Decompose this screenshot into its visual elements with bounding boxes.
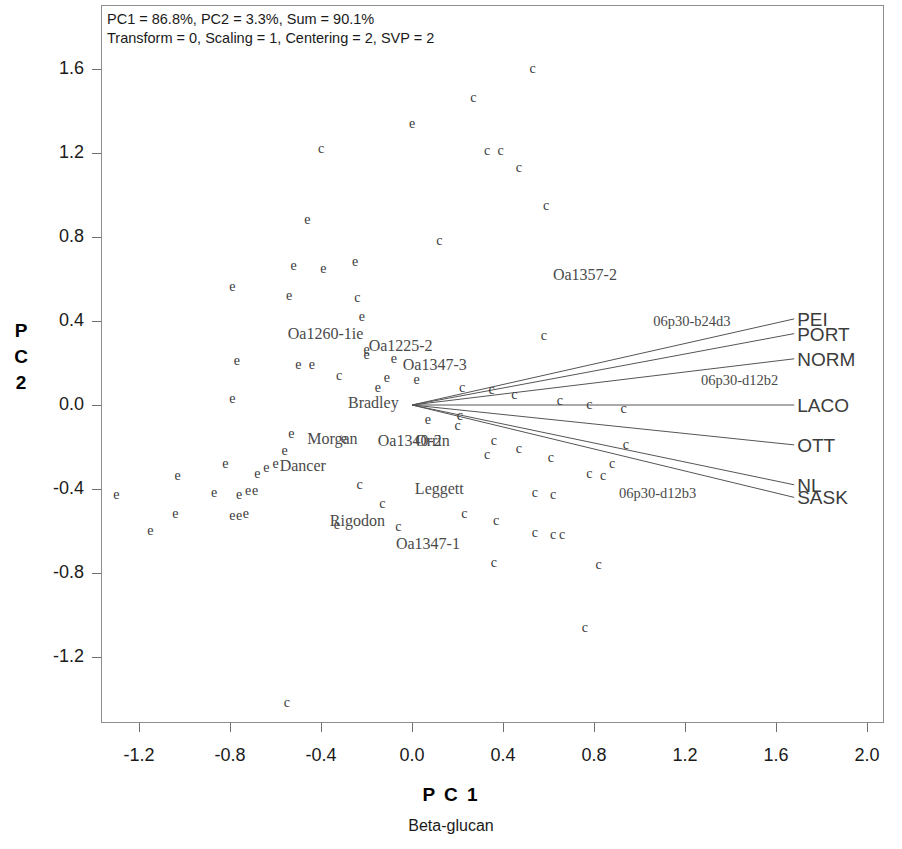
- scatter-point: e: [288, 427, 294, 441]
- scatter-point: c: [498, 144, 504, 158]
- scatter-point: c: [491, 434, 497, 448]
- loading-vector: [412, 405, 794, 445]
- y-axis-title-char: C: [6, 344, 36, 370]
- point-label: 06p30-b24d3: [653, 314, 730, 329]
- point-label: Morgan: [307, 431, 357, 447]
- scatter-point: e: [359, 310, 365, 324]
- scatter-point: e: [320, 262, 326, 276]
- vector-label: NORM: [797, 349, 855, 368]
- point-label: Rigodon: [330, 513, 385, 529]
- y-tick-label: 0.4: [40, 310, 84, 331]
- y-tick-mark: [92, 657, 101, 658]
- x-tick-mark: [503, 723, 504, 732]
- scatter-point: c: [395, 520, 401, 534]
- y-tick-mark: [92, 405, 101, 406]
- y-axis-title-char: 2: [6, 370, 36, 396]
- x-tick-label: -0.4: [291, 745, 351, 766]
- y-tick-label: -0.4: [40, 478, 84, 499]
- scatter-point: c: [493, 514, 499, 528]
- y-tick-mark: [92, 153, 101, 154]
- scatter-point: e: [309, 358, 315, 372]
- scatter-point: c: [623, 438, 629, 452]
- x-tick-label: 0.8: [564, 745, 624, 766]
- x-tick-mark: [594, 723, 595, 732]
- y-tick-mark: [92, 573, 101, 574]
- scatter-point: c: [529, 62, 535, 76]
- scatter-point: c: [586, 467, 592, 481]
- scatter-point: c: [557, 394, 563, 408]
- scatter-point: c: [461, 507, 467, 521]
- scatter-point: c: [548, 451, 554, 465]
- scatter-point: c: [620, 402, 626, 416]
- point-label: Oa1347-1: [396, 536, 460, 552]
- loading-vector: [412, 319, 794, 405]
- scatter-point: e: [263, 461, 269, 475]
- scatter-point: c: [379, 497, 385, 511]
- scatter-point: c: [532, 526, 538, 540]
- scatter-point: c: [609, 457, 615, 471]
- y-axis-title: PC2: [6, 318, 36, 396]
- point-label: 06p30-d12b3: [619, 486, 696, 501]
- vector-label: OTT: [797, 435, 835, 454]
- x-tick-mark: [867, 723, 868, 732]
- scatter-point: e: [234, 354, 240, 368]
- scatter-point: c: [357, 478, 363, 492]
- scatter-point: c: [284, 696, 290, 710]
- point-label: Bradley: [348, 395, 399, 411]
- loading-vector: [412, 334, 794, 405]
- point-label: Orrin: [415, 433, 450, 449]
- y-axis-title-char: P: [6, 318, 36, 344]
- scatter-point: e: [252, 484, 258, 498]
- scatter-point: e: [291, 259, 297, 273]
- scatter-point: c: [484, 144, 490, 158]
- scatter-point: c: [454, 419, 460, 433]
- scatter-point: e: [147, 524, 153, 538]
- scatter-point: e: [384, 371, 390, 385]
- scatter-point: e: [175, 469, 181, 483]
- y-tick-mark: [92, 69, 101, 70]
- y-tick-mark: [92, 321, 101, 322]
- scatter-point: c: [484, 448, 490, 462]
- point-label: Oa1357-2: [553, 267, 617, 283]
- y-tick-label: -0.8: [40, 562, 84, 583]
- scatter-point: e: [425, 413, 431, 427]
- pca-biplot-figure: PC1 = 86.8%, PC2 = 3.3%, Sum = 90.1% Tra…: [0, 0, 902, 849]
- x-tick-mark: [776, 723, 777, 732]
- scatter-point: e: [172, 507, 178, 521]
- scatter-point: c: [532, 486, 538, 500]
- point-label: Leggett: [415, 481, 464, 497]
- scatter-point: e: [295, 358, 301, 372]
- point-label: Dancer: [280, 458, 326, 474]
- scatter-point: e: [286, 289, 292, 303]
- scatter-point: c: [543, 199, 549, 213]
- scatter-point: c: [470, 91, 476, 105]
- vector-label: SASK: [797, 488, 848, 507]
- y-tick-label: 0.8: [40, 226, 84, 247]
- scatter-point: e: [409, 117, 415, 131]
- scatter-point: c: [559, 528, 565, 542]
- vector-label: LACO: [797, 396, 849, 415]
- x-axis-title: P C 1: [0, 784, 902, 806]
- scatter-point: c: [459, 381, 465, 395]
- y-tick-label: 1.6: [40, 58, 84, 79]
- scatter-point: c: [582, 621, 588, 635]
- y-tick-label: 0.0: [40, 394, 84, 415]
- scatter-point: e: [229, 280, 235, 294]
- scatter-point: e: [413, 373, 419, 387]
- scatter-point: c: [516, 161, 522, 175]
- scatter-point: e: [229, 392, 235, 406]
- point-label: Oa1225-2: [369, 338, 433, 354]
- scatter-point: e: [352, 255, 358, 269]
- scatter-point: c: [541, 329, 547, 343]
- scatter-point: c: [511, 388, 517, 402]
- scatter-point: e: [272, 457, 278, 471]
- scatter-point: c: [586, 398, 592, 412]
- x-tick-label: 0.4: [473, 745, 533, 766]
- scatter-point: e: [229, 509, 235, 523]
- x-tick-mark: [412, 723, 413, 732]
- x-tick-mark: [230, 723, 231, 732]
- x-tick-mark: [321, 723, 322, 732]
- scatter-point: e: [236, 509, 242, 523]
- x-axis-subtitle: Beta-glucan: [0, 817, 902, 835]
- x-tick-label: -0.8: [200, 745, 260, 766]
